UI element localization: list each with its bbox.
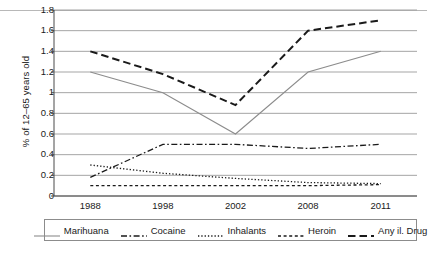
caption-sliver <box>56 246 286 255</box>
axis-lines <box>51 10 417 196</box>
series-line-heroin <box>90 185 380 186</box>
legend-label: Any il. Drug <box>378 225 427 236</box>
legend-swatch-icon <box>348 226 374 234</box>
series-lines <box>90 20 380 185</box>
legend-entry-inhalants[interactable]: Inhalants <box>192 225 273 236</box>
legend-swatch-icon <box>198 226 224 234</box>
legend-swatch-icon <box>121 226 147 234</box>
legend-swatch-icon <box>278 226 304 234</box>
legend-entry-marihuana[interactable]: Marihuana <box>28 225 115 236</box>
legend: MarihuanaCocaineInhalantsHeroinAny il. D… <box>44 219 417 241</box>
legend-label: Cocaine <box>151 225 186 236</box>
legend-entry-heroin[interactable]: Heroin <box>272 225 342 236</box>
series-line-cocaine <box>90 144 380 177</box>
legend-label: Marihuana <box>64 225 109 236</box>
legend-swatch-icon <box>34 226 60 234</box>
legend-entry-any-il-drug[interactable]: Any il. Drug <box>342 225 432 236</box>
legend-label: Inhalants <box>228 225 267 236</box>
series-line-inhalants <box>90 165 380 184</box>
legend-label: Heroin <box>308 225 336 236</box>
gridlines <box>54 10 417 196</box>
legend-entry-cocaine[interactable]: Cocaine <box>115 225 192 236</box>
